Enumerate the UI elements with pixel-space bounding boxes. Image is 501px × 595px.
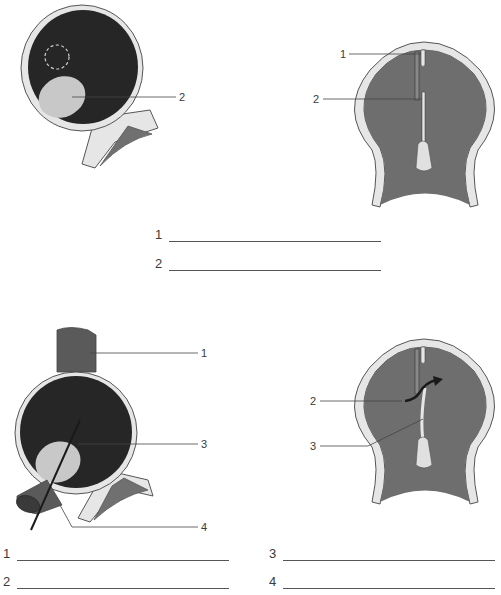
label-3: 3: [310, 440, 316, 452]
blank-line[interactable]: [17, 548, 229, 561]
blank-number: 3: [269, 546, 281, 561]
label-3: 3: [201, 438, 207, 450]
answer-blank-bottom-2[interactable]: 2: [3, 574, 229, 589]
blank-line[interactable]: [17, 576, 229, 589]
blank-line[interactable]: [283, 548, 495, 561]
answer-blank-top-1[interactable]: 1: [155, 227, 381, 242]
answer-blank-bottom-1[interactable]: 1: [3, 546, 229, 561]
answer-blank-bottom-4[interactable]: 4: [269, 574, 495, 589]
label-1: 1: [340, 48, 346, 60]
blank-line[interactable]: [169, 258, 381, 271]
label-2: 2: [179, 91, 185, 103]
blank-number: 1: [3, 546, 15, 561]
blank-number: 2: [3, 574, 15, 589]
blank-line[interactable]: [169, 229, 381, 242]
bottom-right-septum-diagram: 2 3: [310, 339, 495, 504]
blank-line[interactable]: [283, 576, 495, 589]
blank-number: 4: [269, 574, 281, 589]
label-1: 1: [201, 347, 207, 359]
top-right-septum-diagram: 1 2: [313, 42, 495, 207]
blank-number: 2: [155, 256, 167, 271]
answer-blank-top-2[interactable]: 2: [155, 256, 381, 271]
label-4: 4: [201, 521, 207, 533]
bottom-left-heart-diagram: 1 3 4: [14, 328, 207, 534]
blank-number: 1: [155, 227, 167, 242]
answer-blank-bottom-3[interactable]: 3: [269, 546, 495, 561]
label-2: 2: [313, 93, 319, 105]
top-left-heart-diagram: 2: [21, 5, 185, 168]
label-2: 2: [310, 395, 316, 407]
diagram-canvas: 2 1 2 1 3: [0, 0, 501, 595]
